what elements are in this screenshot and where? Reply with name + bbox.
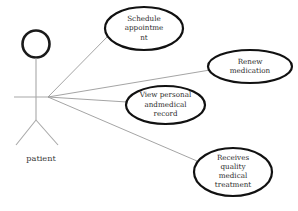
use-case-label-line-3: nt (140, 33, 148, 42)
diagram-surface: patient Schedule appointme nt Renew medi… (0, 0, 298, 211)
use-case-schedule-appointment[interactable]: Schedule appointme nt (105, 7, 183, 50)
use-case-label-line-1: Receives (217, 153, 250, 162)
use-case-view-personal-and-medical-record[interactable]: View personal andmedical record (126, 86, 205, 124)
use-case-label-line-4: treatment (215, 180, 251, 189)
use-case-label-line-1: Renew (238, 57, 264, 66)
use-case-receives-quality-medical-treatment[interactable]: Receives quality medical treatment (194, 148, 272, 196)
use-case-renew-medication[interactable]: Renew medication (208, 50, 292, 83)
use-case-label-line-2: medication (230, 66, 271, 75)
use-case-diagram-canvas: patient Schedule appointme nt Renew medi… (0, 0, 298, 211)
use-case-label-line-3: medical (219, 171, 248, 180)
actor-label-patient: patient (26, 153, 56, 163)
use-case-label-line-1: Schedule (127, 14, 161, 23)
actor-left-leg-line (16, 120, 36, 145)
actor-head-icon (23, 31, 50, 58)
association-line-schedule-appointment (48, 36, 108, 97)
use-case-label-line-2: quality (220, 162, 246, 171)
association-line-view-record (48, 97, 127, 102)
use-case-label-line-2: appointme (125, 23, 164, 32)
use-case-label-line-3: record (153, 109, 177, 118)
use-case-label-line-1: View personal (139, 90, 192, 99)
use-case-label-line-2: andmedical (144, 100, 187, 109)
actor-right-leg-line (36, 120, 58, 145)
